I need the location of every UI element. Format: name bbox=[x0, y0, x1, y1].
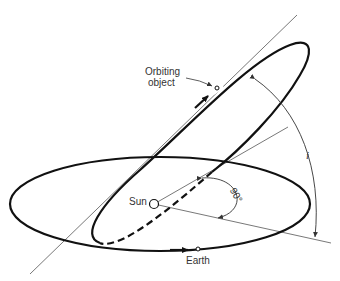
orbit-diagram: Orbiting object Sun Earth 90° i bbox=[0, 0, 340, 281]
right-angle-label: 90° bbox=[228, 186, 245, 205]
orbiting-object-pointer bbox=[186, 78, 212, 86]
inclined-orbit-upper bbox=[92, 43, 309, 243]
sun-label: Sun bbox=[129, 196, 147, 207]
inclination-label: i bbox=[306, 149, 309, 161]
earth-label: Earth bbox=[186, 255, 210, 266]
ecliptic-perpendicular-line bbox=[154, 204, 331, 243]
orbiting-object-label-line1: Orbiting bbox=[145, 66, 180, 77]
orbiting-object-marker bbox=[215, 86, 219, 90]
orbit-direction-arrow bbox=[195, 96, 208, 108]
orbiting-object-label-line2: object bbox=[148, 77, 175, 88]
earth-marker bbox=[196, 247, 200, 251]
earth-orbit bbox=[10, 157, 310, 251]
sun-marker bbox=[150, 200, 159, 209]
